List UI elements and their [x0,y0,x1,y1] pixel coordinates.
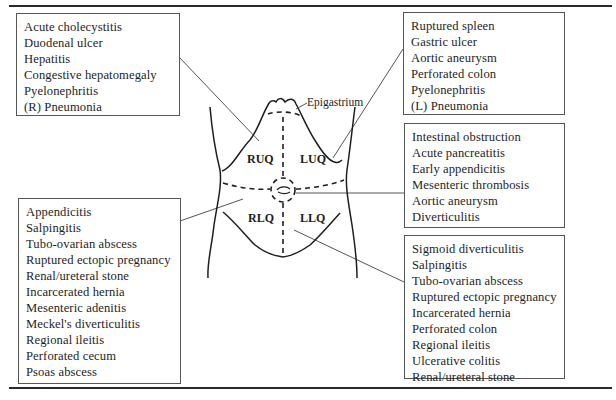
diagnosis-item: Ruptured ectopic pregnancy [26,252,180,268]
diagnosis-item: Early appendicitis [412,161,564,177]
diagnosis-item: Ruptured ectopic pregnancy [412,289,564,305]
ruq-diagnoses-box: Acute cholecystitis Duodenal ulcer Hepat… [16,13,180,116]
diagnosis-item: Appendicitis [26,204,180,220]
leader-line-ruq [179,57,259,141]
diagnosis-item: Pyelonephritis [24,83,179,99]
periumbilical-diagnoses-box: Intestinal obstruction Acute pancreatiti… [404,123,565,228]
diagnosis-item: Mesenteric thrombosis [412,177,564,193]
diagnosis-item: Aortic aneurysm [412,193,564,209]
diagnosis-item: Perforated colon [411,66,564,82]
transverse-line-right [223,183,270,189]
label-ruq: RUQ [247,152,274,166]
transverse-line-left [296,180,344,189]
leader-line-rlq [180,199,243,221]
rlq-diagnoses-box: Appendicitis Salpingitis Tubo-ovarian ab… [18,198,181,384]
diagnosis-item: Acute pancreatitis [412,145,564,161]
diagnosis-item: Regional ileitis [412,337,564,353]
diagnosis-item: Ruptured spleen [411,18,564,34]
diagnosis-item: Hepatitis [24,51,179,67]
diagnosis-item: Acute cholecystitis [24,19,179,35]
llq-diagnoses-box: Sigmoid diverticulitis Salpingitis Tubo-… [404,235,565,379]
label-epigastrium: Epigastrium [307,96,363,109]
diagnosis-item: Duodenal ulcer [24,35,179,51]
label-rlq: RLQ [248,211,274,225]
diagnosis-item: Psoas abscess [26,364,180,380]
diagnosis-item: Incarcerated hernia [26,284,180,300]
diagnosis-item: Intestinal obstruction [412,129,564,145]
leader-line-llq [294,230,404,282]
diagnosis-item: Incarcerated hernia [412,305,564,321]
diagnosis-item: Regional ileitis [26,332,180,348]
diagnosis-item: Tubo-ovarian abscess [412,273,564,289]
diagnosis-item: Salpingitis [26,220,180,236]
diagnosis-item: Meckel's diverticulitis [26,316,180,332]
diagnosis-item: Gastric ulcer [411,34,564,50]
diagnosis-item: Congestive hepatomegaly [24,67,179,83]
diagnosis-item: (L) Pneumonia [411,98,564,114]
diagnosis-item: Perforated cecum [26,348,180,364]
diagnosis-item: (R) Pneumonia [24,99,179,115]
diagnosis-item: Mesenteric adenitis [26,300,180,316]
luq-diagnoses-box: Ruptured spleen Gastric ulcer Aortic ane… [403,12,565,115]
umbilical-region [271,178,295,202]
diagnosis-item: Sigmoid diverticulitis [412,241,564,257]
diagnosis-item: Perforated colon [412,321,564,337]
label-llq: LLQ [300,211,325,225]
label-luq: LUQ [300,152,326,166]
diagnosis-item: Aortic aneurysm [411,50,564,66]
diagnosis-item: Salpingitis [412,257,564,273]
diagnosis-item: Ulcerative colitis [412,353,564,369]
diagnosis-item: Renal/ureteral stone [26,268,180,284]
epigastrium-boundary [268,112,301,116]
diagnosis-item: Pyelonephritis [411,82,564,98]
diagnosis-item: Diverticulitis [412,209,564,225]
umbilicus-icon [277,187,290,194]
diagnosis-item: Tubo-ovarian abscess [26,236,180,252]
diagnosis-item: Renal/ureteral stone [412,369,564,385]
